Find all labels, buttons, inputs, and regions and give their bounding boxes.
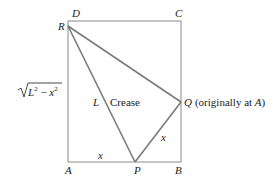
q-letter: Q — [184, 96, 192, 108]
crease-line-rp — [68, 26, 135, 162]
crease-label: Crease — [110, 96, 140, 108]
expr-L: L — [27, 86, 34, 98]
length-label-x-side: x — [160, 131, 166, 143]
length-label-x-bottom: x — [97, 149, 103, 161]
expr-minus: − — [38, 86, 50, 98]
fold-edge-pq — [135, 102, 181, 162]
vertex-label-q: Q(originally at A) — [184, 96, 266, 109]
crease-diagram: D C R A P B Q(originally at A) L Crease … — [0, 0, 273, 184]
q-note-close: ) — [262, 96, 266, 109]
q-note: (originally at — [195, 96, 255, 109]
svg-text:L2 − x2: L2 − x2 — [27, 85, 58, 98]
length-label-l: L — [92, 96, 99, 108]
fold-edge-rq — [68, 26, 181, 102]
vertex-label-c: C — [175, 7, 183, 19]
vertex-label-p: P — [133, 164, 141, 176]
vertex-label-b: B — [175, 164, 182, 176]
vertex-label-d: D — [71, 7, 80, 19]
vertex-label-a: A — [64, 164, 72, 176]
expr-exp2: 2 — [54, 85, 58, 93]
side-length-expression: L2 − x2 — [18, 83, 62, 98]
vertex-label-r: R — [57, 20, 65, 32]
